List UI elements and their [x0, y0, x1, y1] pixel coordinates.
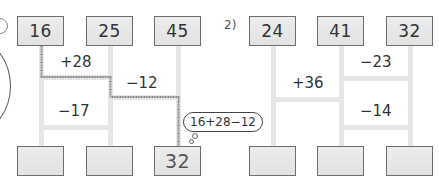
answer-box[interactable]: [317, 146, 364, 176]
answer-box[interactable]: [249, 146, 296, 176]
ladder-rung: [273, 97, 341, 102]
rung-label: −17: [58, 102, 90, 120]
rung-label: −14: [360, 102, 392, 120]
answer-box[interactable]: 32: [154, 146, 201, 176]
amida-ladder-worksheet: +28 −12 −17 16 25 45 32 16+28−12 2) −23 …: [0, 0, 439, 190]
ladder-vertical-3: [408, 46, 413, 146]
ladder-vertical-2: [339, 46, 344, 146]
top-box: 41: [317, 16, 364, 46]
answer-box[interactable]: [17, 146, 64, 176]
top-box: 16: [17, 16, 64, 46]
ladder-rung: [341, 125, 410, 130]
ladder-rung: [341, 76, 410, 81]
thought-dot: [189, 139, 194, 144]
top-box: 24: [249, 16, 296, 46]
top-box: 32: [386, 16, 433, 46]
answer-box[interactable]: [86, 146, 133, 176]
answer-box[interactable]: [386, 146, 433, 176]
hint-thought-bubble: 16+28−12: [183, 112, 263, 132]
problem-number: 2): [224, 18, 236, 32]
rung-label: −23: [360, 53, 392, 71]
top-box: 45: [154, 16, 201, 46]
rung-label: −12: [126, 74, 158, 92]
rung-label: +36: [292, 74, 324, 92]
traced-path: [0, 0, 439, 190]
ladder-vertical-1: [271, 46, 276, 146]
top-box: 25: [86, 16, 133, 46]
thought-dot: [192, 133, 198, 139]
rung-label: +28: [60, 53, 92, 71]
